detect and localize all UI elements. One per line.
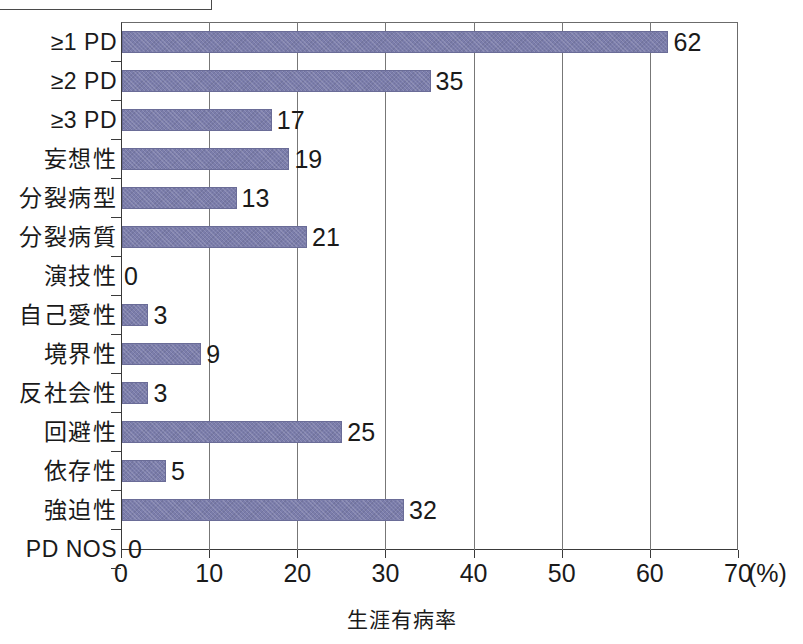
bar-value-label: 62 [673, 27, 701, 56]
bar-value-label: 17 [277, 105, 305, 134]
bar-row: ≥3 PD17 [0, 100, 803, 139]
bar-value-label: 3 [153, 378, 167, 407]
bar-value-label: 3 [153, 300, 167, 329]
bar-row: 回避性25 [0, 412, 803, 451]
bar-value-label: 0 [128, 534, 142, 563]
bar-value-label: 35 [436, 66, 464, 95]
category-label: PD NOS [26, 535, 117, 562]
bar-row: 自己愛性3 [0, 295, 803, 334]
bar-value-label: 25 [347, 417, 375, 446]
bar-value-label: 0 [124, 261, 138, 290]
category-label: 演技性 [44, 262, 118, 289]
category-label: 分裂病質 [19, 223, 117, 250]
category-label: 自己愛性 [19, 301, 117, 328]
bar-value-label: 5 [171, 456, 185, 485]
bar-row: 妄想性19 [0, 139, 803, 178]
bar-row: ≥1 PD62 [0, 22, 803, 61]
bar [122, 382, 148, 404]
bar-row: 依存性5 [0, 451, 803, 490]
bar [122, 421, 342, 443]
category-label: ≥3 PD [51, 106, 117, 133]
bar-row: 分裂病型13 [0, 178, 803, 217]
bar-value-label: 13 [242, 183, 270, 212]
bar [122, 226, 307, 248]
bar [122, 109, 272, 131]
category-label: ≥1 PD [51, 28, 117, 55]
bar-row: 演技性0 [0, 256, 803, 295]
bar [122, 70, 431, 92]
bar-value-label: 32 [409, 495, 437, 524]
bar [122, 31, 668, 53]
x-axis-title: 生涯有病率 [0, 603, 803, 633]
category-label: 反社会性 [19, 379, 117, 406]
bar [122, 343, 201, 365]
bar [122, 187, 237, 209]
category-label: 分裂病型 [19, 184, 117, 211]
bar-row: PD NOS0 [0, 529, 803, 568]
horizontal-bar-chart: 010203040506070 (%) ≥1 PD62≥2 PD35≥3 PD1… [0, 0, 803, 644]
category-label: 依存性 [44, 457, 118, 484]
bar-row: ≥2 PD35 [0, 61, 803, 100]
bar [122, 460, 166, 482]
bar-row: 反社会性3 [0, 373, 803, 412]
bar-value-label: 19 [294, 144, 322, 173]
bar-row: 分裂病質21 [0, 217, 803, 256]
category-label: 回避性 [44, 418, 118, 445]
category-label: 妄想性 [44, 145, 118, 172]
bar-value-label: 9 [206, 339, 220, 368]
category-label: 強迫性 [44, 496, 118, 523]
category-label: ≥2 PD [51, 67, 117, 94]
bar [122, 304, 148, 326]
y-tick-end [111, 568, 121, 569]
bar [122, 499, 404, 521]
category-label: 境界性 [44, 340, 118, 367]
bar-row: 境界性9 [0, 334, 803, 373]
bar [122, 148, 289, 170]
bar-row: 強迫性32 [0, 490, 803, 529]
bar-value-label: 21 [312, 222, 340, 251]
